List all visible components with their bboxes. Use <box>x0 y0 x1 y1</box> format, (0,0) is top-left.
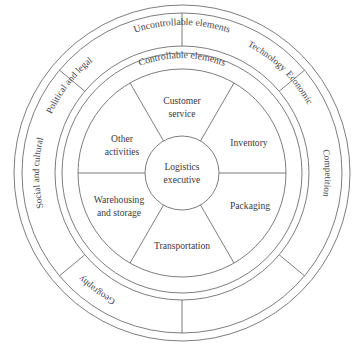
logistics-executive-hub <box>145 136 219 210</box>
label-customer-service-line2: service <box>168 108 195 119</box>
segment-transportation: Transportation <box>154 240 210 251</box>
hub-label-line1: Logistics <box>164 161 199 172</box>
label-customer-service-line1: Customer <box>163 95 201 106</box>
logistics-wheel-diagram: Uncontrollable elements Controllable ele… <box>0 0 363 348</box>
label-transportation-line1: Transportation <box>154 240 210 251</box>
label-warehousing-line1: Warehousing <box>94 194 145 205</box>
label-warehousing-line2: and storage <box>97 207 141 218</box>
label-inventory-line1: Inventory <box>230 137 268 148</box>
segment-inventory: Inventory <box>230 137 268 148</box>
label-other-activities-line2: activities <box>105 146 140 157</box>
hub-label-line2: executive <box>164 174 201 185</box>
label-packaging-line1: Packaging <box>230 200 270 211</box>
segment-packaging: Packaging <box>230 200 270 211</box>
label-other-activities-line1: Other <box>111 133 134 144</box>
